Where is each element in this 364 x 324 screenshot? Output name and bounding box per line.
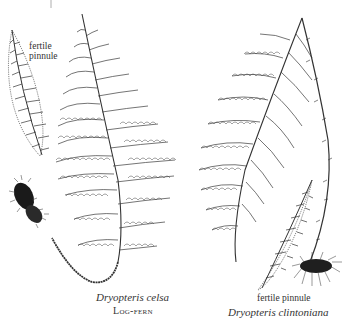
fertile-pinnule-label-left: fertile pinnule <box>29 42 58 62</box>
fertile-pinnule-label-left-line2: pinnule <box>29 52 58 62</box>
dryopteris-clintoniana-stipe <box>302 18 332 262</box>
dryopteris-clintoniana-rhizome <box>292 252 342 286</box>
common-name-log-fern: Log-fern <box>113 306 153 317</box>
species-name-clintoniana: Dryopteris clintoniana <box>228 307 329 319</box>
dryopteris-celsa-rhizome <box>9 175 49 228</box>
fertile-pinnule-label-right: fertile pinnule <box>257 294 311 304</box>
dryopteris-celsa-frond <box>52 14 176 282</box>
species-name-celsa: Dryopteris celsa <box>96 292 169 304</box>
